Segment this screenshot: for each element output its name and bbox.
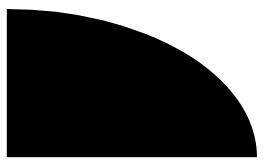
canvas xyxy=(0,0,264,165)
quarter-ellipse-shape xyxy=(0,0,264,165)
